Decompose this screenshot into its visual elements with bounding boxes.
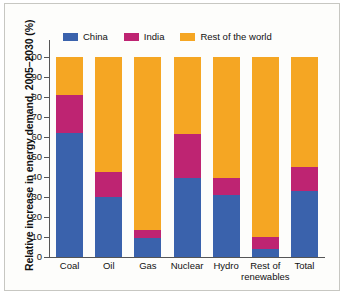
legend-item-india: India: [124, 31, 165, 42]
bar-stack[interactable]: [95, 57, 122, 257]
bar-segment-rest-of-the-world[interactable]: [174, 57, 201, 134]
plot-area: [50, 57, 324, 257]
bar-segment-rest-of-the-world[interactable]: [252, 57, 279, 237]
bar-segment-rest-of-the-world[interactable]: [291, 57, 318, 167]
y-axis-title: Relative increase in energy demand, 2005…: [23, 21, 35, 271]
bar-segment-india[interactable]: [56, 95, 83, 133]
x-axis-label-line: renewables: [233, 272, 297, 283]
bar-stack[interactable]: [291, 57, 318, 257]
legend-item-rest-of-the-world: Rest of the world: [180, 31, 271, 42]
x-axis-line: [49, 257, 325, 258]
bar-segment-rest-of-the-world[interactable]: [134, 57, 161, 230]
bar-stack[interactable]: [213, 57, 240, 257]
bar-segment-china[interactable]: [213, 195, 240, 257]
legend-swatch-rest-of-the-world: [180, 33, 195, 41]
bar-segment-india[interactable]: [252, 237, 279, 249]
x-axis-label-total: Total: [272, 261, 336, 272]
bar-segment-china[interactable]: [174, 178, 201, 257]
bar-stack[interactable]: [134, 57, 161, 257]
bar-segment-india[interactable]: [291, 167, 318, 191]
legend-item-china: China: [63, 31, 108, 42]
bar-stack[interactable]: [56, 57, 83, 257]
bar-segment-china[interactable]: [291, 191, 318, 257]
legend-swatch-china: [63, 33, 78, 41]
bar-segment-china[interactable]: [56, 133, 83, 257]
bar-segment-china[interactable]: [134, 238, 161, 257]
bar-segment-india[interactable]: [213, 178, 240, 195]
bar-stack[interactable]: [174, 57, 201, 257]
bar-stack[interactable]: [252, 57, 279, 257]
bar-segment-china[interactable]: [95, 197, 122, 257]
bar-segment-india[interactable]: [95, 172, 122, 197]
legend-swatch-india: [124, 33, 139, 41]
bar-segment-india[interactable]: [174, 134, 201, 178]
legend-label-india: India: [144, 31, 165, 42]
bar-segment-rest-of-the-world[interactable]: [213, 57, 240, 178]
chart-legend: China India Rest of the world: [63, 31, 272, 42]
legend-label-china: China: [83, 31, 108, 42]
legend-label-rest-of-the-world: Rest of the world: [200, 31, 271, 42]
bar-segment-china[interactable]: [252, 249, 279, 257]
bar-segment-india[interactable]: [134, 230, 161, 238]
chart-figure: Relative increase in energy demand, 2005…: [0, 0, 346, 307]
x-axis-label-line: Total: [272, 261, 336, 272]
bar-segment-rest-of-the-world[interactable]: [95, 57, 122, 172]
bar-segment-rest-of-the-world[interactable]: [56, 57, 83, 95]
